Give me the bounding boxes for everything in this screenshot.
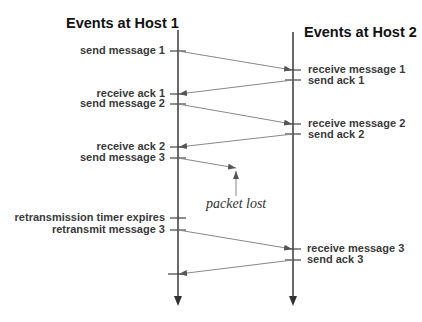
retransmit-3-arrow: [178, 230, 292, 249]
down-arrow-icon: [174, 296, 182, 306]
ack-3-arrow: [179, 260, 293, 274]
ack-1-arrow: [179, 80, 293, 94]
message-2-arrow: [178, 104, 292, 124]
host2-event-label: send ack 1: [308, 74, 364, 86]
host2-event-label: send ack 2: [308, 128, 364, 140]
host1-title: Events at Host 1: [66, 15, 179, 31]
host1-event-label: send message 1: [80, 44, 165, 56]
down-arrow-icon: [289, 296, 297, 306]
host2-title: Events at Host 2: [304, 24, 417, 40]
host1-event-label: send message 3: [80, 151, 165, 163]
message-1-arrow: [178, 51, 292, 70]
ack-2-arrow: [179, 134, 293, 147]
host1-event-label: retransmit message 3: [52, 223, 165, 235]
host2-event-label: send ack 3: [307, 253, 363, 265]
host1-ticks: [168, 51, 186, 274]
message-3-lost-arrow: [178, 158, 236, 168]
host1-timeline: [174, 30, 182, 306]
timeline-diagram: [0, 0, 422, 322]
host1-event-label: retransmission timer expires: [15, 211, 165, 223]
host2-timeline: [289, 32, 297, 306]
packet-lost-annotation: packet lost: [206, 196, 266, 212]
host1-event-label: send message 2: [80, 97, 165, 109]
